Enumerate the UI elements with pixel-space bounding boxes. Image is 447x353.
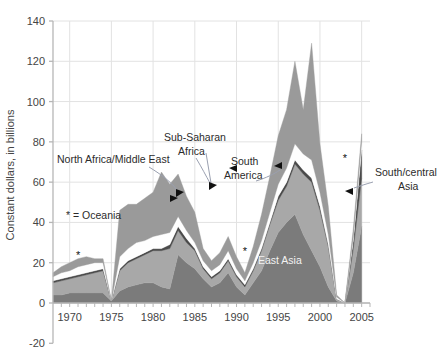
x-tick-label: 1970 bbox=[57, 311, 81, 323]
y-tick-label: 60 bbox=[33, 176, 45, 188]
area-series-layer bbox=[53, 43, 362, 303]
oceania-marker: * bbox=[243, 245, 248, 257]
oceania-footnote: * = Oceania bbox=[66, 209, 121, 221]
y-tick-label: 100 bbox=[27, 96, 45, 108]
x-tick-label: 1990 bbox=[224, 311, 248, 323]
annotation-south-america-line1: South bbox=[231, 155, 259, 167]
y-tick-label: 120 bbox=[27, 55, 45, 67]
x-tick-label: 1980 bbox=[141, 311, 165, 323]
stacked-area-chart: -200204060801001201401970197519801985199… bbox=[0, 0, 447, 353]
chart-container: -200204060801001201401970197519801985199… bbox=[0, 0, 447, 353]
annotation-east-asia: East Asia bbox=[258, 254, 302, 266]
y-tick-label: 40 bbox=[33, 216, 45, 228]
oceania-marker: * bbox=[76, 249, 81, 261]
y-axis-title: Constant dollars, in billions bbox=[4, 109, 16, 240]
oceania-marker: * bbox=[343, 152, 348, 164]
y-tick-label: -20 bbox=[29, 337, 45, 349]
y-tick-label: 80 bbox=[33, 136, 45, 148]
x-tick-label: 2005 bbox=[349, 311, 373, 323]
annotation-north-africa-middle-east: North Africa/Middle East bbox=[57, 153, 170, 165]
y-tick-label: 0 bbox=[39, 297, 45, 309]
annotation-south-america-line2: America bbox=[224, 169, 263, 181]
x-tick-label: 1975 bbox=[99, 311, 123, 323]
annotation-south-central-asia-line2: Asia bbox=[398, 180, 419, 192]
x-tick-label: 1995 bbox=[266, 311, 290, 323]
y-tick-label: 140 bbox=[27, 15, 45, 27]
x-tick-label: 1985 bbox=[183, 311, 207, 323]
annotation-sub-saharan-africa-line1: Sub-Saharan bbox=[164, 131, 226, 143]
annotation-sub-saharan-africa-line2: Africa bbox=[178, 145, 205, 157]
x-tick-label: 2000 bbox=[308, 311, 332, 323]
y-tick-label: 20 bbox=[33, 257, 45, 269]
annotation-south-central-asia-line1: South/central bbox=[375, 166, 437, 178]
